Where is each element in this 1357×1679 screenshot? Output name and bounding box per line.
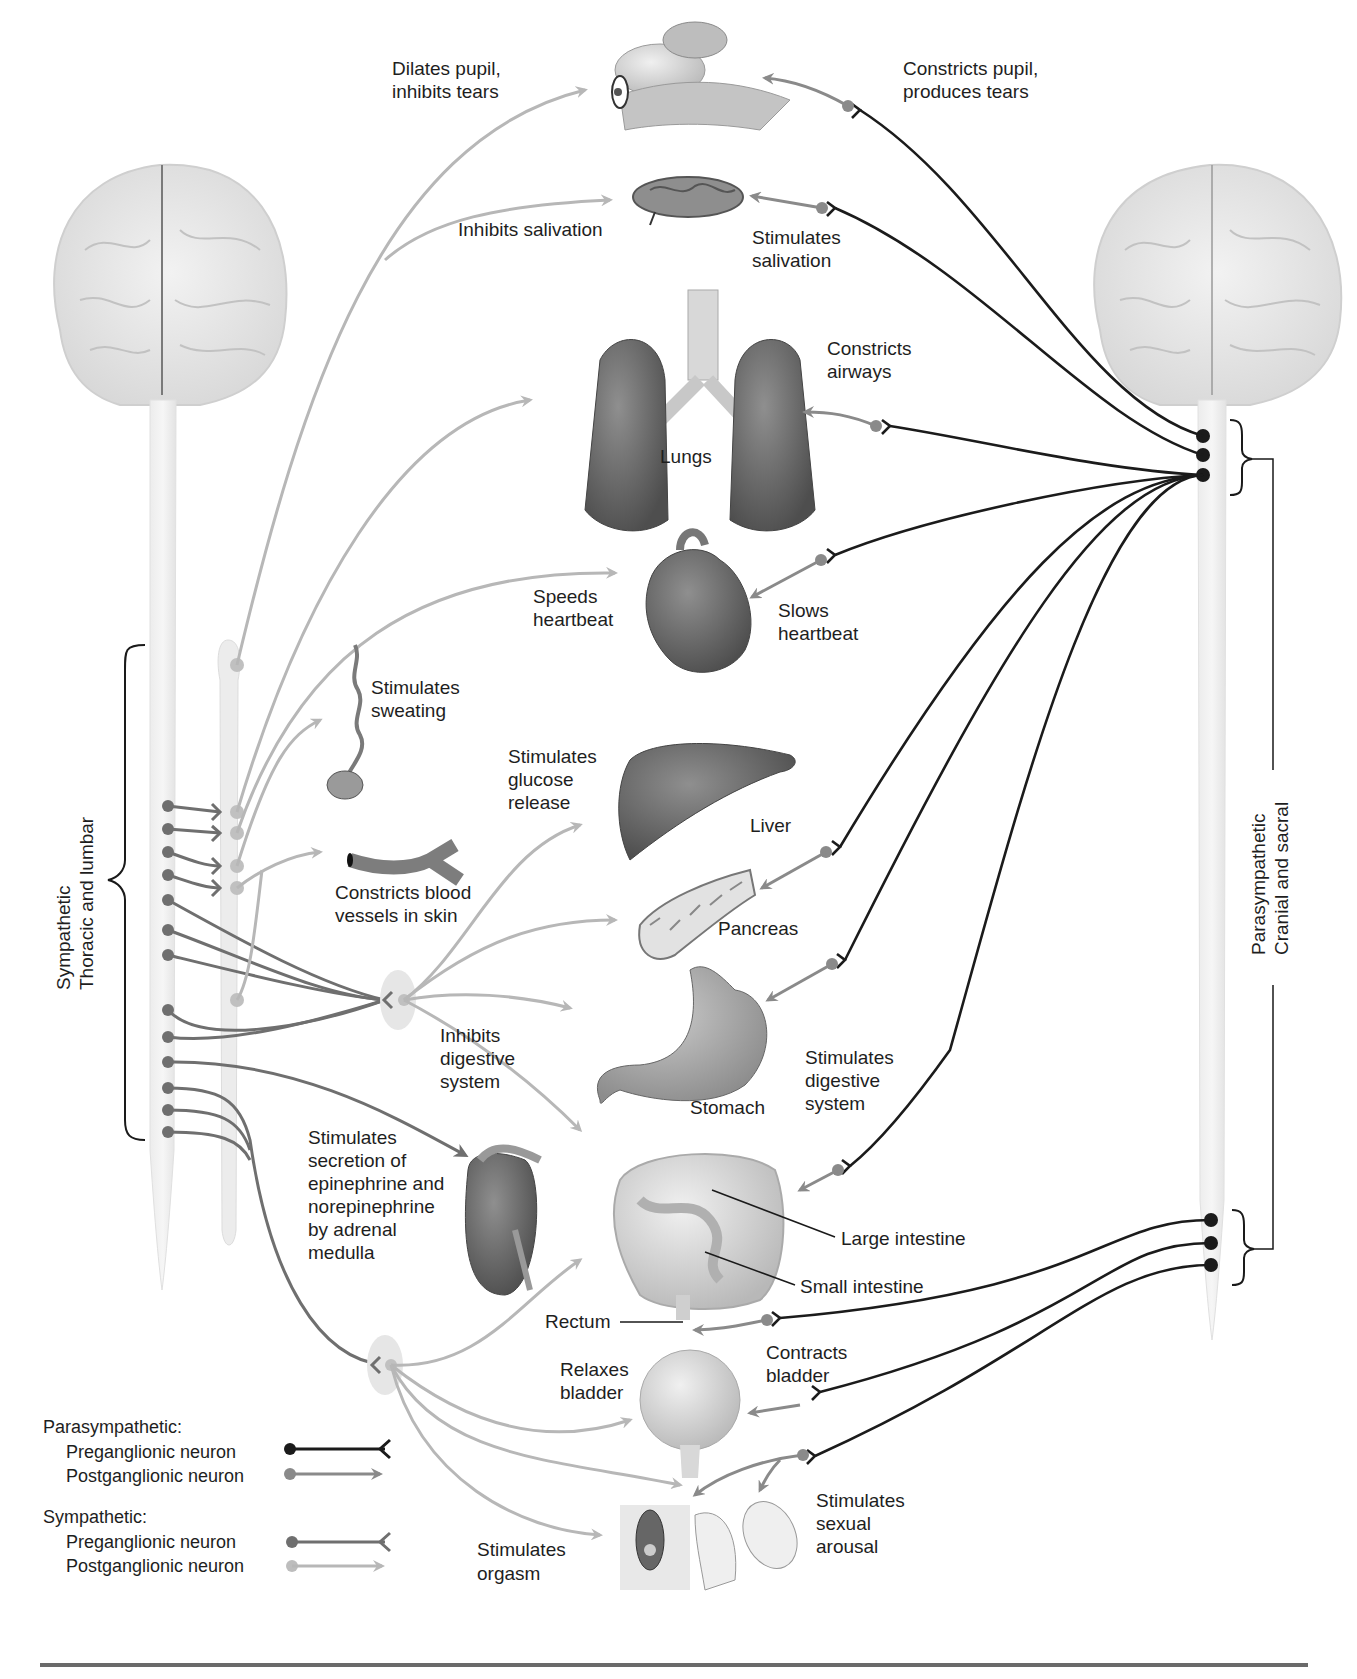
liver-sympathetic-effect: Stimulates glucose release	[508, 746, 597, 813]
salivary-gland-illustration	[633, 177, 743, 225]
svg-text:heartbeat: heartbeat	[778, 623, 859, 644]
legend-sympathetic-title: Sympathetic:	[43, 1507, 147, 1527]
svg-text:Stimulates: Stimulates	[508, 746, 597, 767]
svg-text:inhibits tears: inhibits tears	[392, 81, 499, 102]
sympathetic-label: Sympathetic	[53, 885, 74, 990]
svg-text:epinephrine and: epinephrine and	[308, 1173, 444, 1194]
svg-text:orgasm: orgasm	[477, 1563, 540, 1584]
svg-text:by adrenal: by adrenal	[308, 1219, 397, 1240]
heart-illustration	[646, 532, 751, 672]
cranial-brace	[1230, 420, 1252, 495]
pancreas-illustration	[639, 870, 755, 959]
svg-text:bladder: bladder	[766, 1365, 830, 1386]
digestive-parasympathetic-effect: Stimulates digestive system	[805, 1047, 894, 1114]
svg-text:Dilates pupil,: Dilates pupil,	[392, 58, 501, 79]
svg-text:Stimulates: Stimulates	[752, 227, 841, 248]
blood-vessel-sympathetic-effect: Constricts blood vessels in skin	[335, 882, 471, 926]
svg-text:sexual: sexual	[816, 1513, 871, 1534]
lungs-illustration	[585, 290, 815, 531]
svg-text:Stimulates: Stimulates	[816, 1490, 905, 1511]
svg-text:system: system	[440, 1071, 500, 1092]
svg-text:Stimulates: Stimulates	[477, 1539, 566, 1560]
lungs-label: Lungs	[660, 446, 712, 467]
svg-text:secretion of: secretion of	[308, 1150, 407, 1171]
svg-text:salivation: salivation	[752, 250, 831, 271]
intestines-illustration	[614, 1154, 784, 1320]
legend: Parasympathetic: Preganglionic neuron Po…	[43, 1417, 390, 1576]
eye-illustration	[612, 22, 790, 130]
digestive-sympathetic-effect: Inhibits digestive system	[440, 1025, 515, 1092]
parasympathetic-region-label: Cranial and sacral	[1271, 802, 1292, 955]
svg-text:release: release	[508, 792, 570, 813]
sympathetic-brace	[108, 645, 145, 1140]
rectum-label: Rectum	[545, 1311, 610, 1332]
heart-sympathetic-effect: Speeds heartbeat	[533, 586, 614, 630]
svg-text:sweating: sweating	[371, 700, 446, 721]
svg-text:digestive: digestive	[805, 1070, 880, 1091]
svg-text:Inhibits salivation: Inhibits salivation	[458, 219, 603, 240]
stomach-label: Stomach	[690, 1097, 765, 1118]
liver-illustration	[619, 744, 795, 860]
svg-text:Constricts: Constricts	[827, 338, 911, 359]
svg-text:norepinephrine: norepinephrine	[308, 1196, 435, 1217]
svg-text:Constricts pupil,: Constricts pupil,	[903, 58, 1038, 79]
svg-text:system: system	[805, 1093, 865, 1114]
svg-text:Stimulates: Stimulates	[308, 1127, 397, 1148]
svg-text:Stimulates: Stimulates	[805, 1047, 894, 1068]
bladder-parasympathetic-effect: Contracts bladder	[766, 1342, 847, 1386]
svg-text:Contracts: Contracts	[766, 1342, 847, 1363]
svg-text:medulla: medulla	[308, 1242, 375, 1263]
legend-parasympathetic-pre-label: Preganglionic neuron	[66, 1442, 236, 1462]
kidney-adrenal-illustration	[465, 1148, 540, 1295]
right-spinal-cord	[1198, 400, 1226, 1340]
svg-text:Stimulates: Stimulates	[371, 677, 460, 698]
bottom-rule	[40, 1663, 1308, 1667]
right-brain	[1094, 165, 1341, 405]
liver-label: Liver	[750, 815, 792, 836]
svg-text:Slows: Slows	[778, 600, 829, 621]
genital-parasympathetic-effect: Stimulates sexual arousal	[816, 1490, 905, 1557]
salivary-sympathetic-effect: Inhibits salivation	[458, 219, 603, 240]
svg-text:digestive: digestive	[440, 1048, 515, 1069]
sweat-sympathetic-effect: Stimulates sweating	[371, 677, 460, 721]
svg-text:heartbeat: heartbeat	[533, 609, 614, 630]
legend-parasympathetic-title: Parasympathetic:	[43, 1417, 182, 1437]
svg-text:Relaxes: Relaxes	[560, 1359, 629, 1380]
genital-sympathetic-effect: Stimulates orgasm	[477, 1539, 566, 1584]
autonomic-nervous-system-diagram: Sympathetic Thoracic and lumbar	[0, 0, 1357, 1679]
svg-text:Speeds: Speeds	[533, 586, 597, 607]
sacral-brace	[1232, 1210, 1254, 1285]
adrenal-sympathetic-effect: Stimulates secretion of epinephrine and …	[308, 1127, 444, 1263]
lungs-parasympathetic-effect: Constricts airways	[827, 338, 911, 382]
legend-sympathetic-post-label: Postganglionic neuron	[66, 1556, 244, 1576]
legend-parasympathetic-post-label: Postganglionic neuron	[66, 1466, 244, 1486]
svg-text:arousal: arousal	[816, 1536, 878, 1557]
stomach-illustration	[597, 967, 766, 1104]
pancreas-label: Pancreas	[718, 918, 798, 939]
svg-text:Inhibits: Inhibits	[440, 1025, 500, 1046]
svg-text:airways: airways	[827, 361, 891, 382]
eye-parasympathetic-effect: Constricts pupil, produces tears	[903, 58, 1038, 102]
left-brain	[54, 165, 286, 405]
svg-text:produces tears: produces tears	[903, 81, 1029, 102]
salivary-parasympathetic-effect: Stimulates salivation	[752, 227, 841, 271]
svg-text:glucose: glucose	[508, 769, 574, 790]
sympathetic-region-label: Thoracic and lumbar	[76, 816, 97, 990]
eye-sympathetic-effect: Dilates pupil, inhibits tears	[392, 58, 501, 102]
bladder-sympathetic-effect: Relaxes bladder	[560, 1359, 629, 1403]
legend-sympathetic-pre-label: Preganglionic neuron	[66, 1532, 236, 1552]
parasympathetic-label: Parasympathetic	[1248, 813, 1269, 955]
svg-text:bladder: bladder	[560, 1382, 624, 1403]
heart-parasympathetic-effect: Slows heartbeat	[778, 600, 859, 644]
left-spinal-cord	[150, 400, 176, 1290]
svg-text:vessels in skin: vessels in skin	[335, 905, 458, 926]
large-intestine-label: Large intestine	[841, 1228, 966, 1249]
genitals-illustration	[620, 1493, 807, 1590]
svg-text:Constricts blood: Constricts blood	[335, 882, 471, 903]
blood-vessel-illustration	[347, 845, 460, 880]
bladder-illustration	[640, 1350, 740, 1478]
small-intestine-label: Small intestine	[800, 1276, 924, 1297]
sympathetic-chain	[218, 640, 240, 1245]
